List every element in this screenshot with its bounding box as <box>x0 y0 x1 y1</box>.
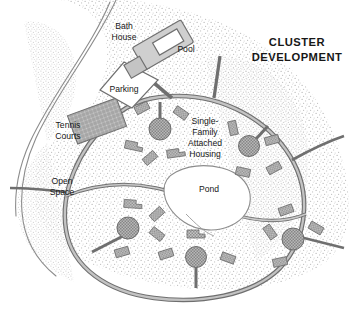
cul-de-sac <box>149 118 171 140</box>
cul-de-sac <box>117 217 139 239</box>
label-open-space-line1: Open <box>51 176 72 186</box>
label-parking: Parking <box>109 84 138 94</box>
cul-de-sac <box>239 136 260 157</box>
label-housing-line4: Housing <box>189 149 221 159</box>
title-line-1: CLUSTER <box>269 36 325 48</box>
label-bath-house-line2: House <box>112 32 137 42</box>
label-housing-line3: Attached <box>188 138 222 148</box>
label-tennis-courts-line1: Tennis <box>56 120 81 130</box>
label-pond: Pond <box>199 184 219 194</box>
cul-de-sac <box>186 247 207 268</box>
cul-de-sac <box>282 228 304 250</box>
label-pool: Pool <box>177 44 194 54</box>
label-tennis-courts-line2: Courts <box>55 131 80 141</box>
label-housing-line2: Family <box>192 127 218 137</box>
cluster-development-site-plan: Bath House Pool Parking Tennis Courts Op… <box>0 0 352 319</box>
title-line-2: DEVELOPMENT <box>252 51 343 63</box>
label-bath-house-line1: Bath <box>115 21 133 31</box>
label-housing-line1: Single- <box>192 116 219 126</box>
label-open-space-line2: Space <box>50 187 75 197</box>
